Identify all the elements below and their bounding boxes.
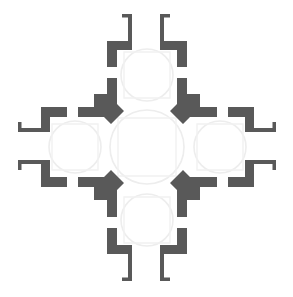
floor-plan-canvas	[0, 0, 293, 297]
floor-plan-drawing	[0, 0, 293, 297]
plan-background	[0, 0, 293, 297]
